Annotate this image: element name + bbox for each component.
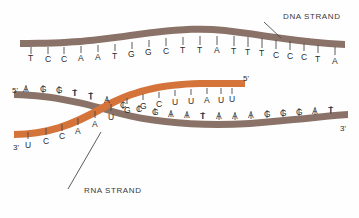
rna-base: A [204,95,210,105]
rna-base: G [124,105,131,115]
dna-strand-label: DNA STRAND [283,12,341,21]
dna-bottom-base: A [248,110,254,120]
dna-top-base: A [332,56,338,66]
rna-base: C [43,136,49,146]
dna-bottom-base: A [184,110,190,120]
rna-base: U [218,95,224,105]
transcription-diagram: T C C A A T G G C T T A T T T C C C T A … [0,0,359,218]
dna-bottom-base: A [104,95,110,105]
dna-bottom-base: T [200,111,205,121]
dna-top-base: C [61,54,67,64]
dna-top-base: A [78,53,84,63]
dna-bottom-base: A [312,106,318,116]
dna-top-base: G [128,49,135,59]
dna-top-base: C [45,54,51,64]
dna-bottom-base: T [328,105,333,115]
dna-top-base: C [273,50,279,60]
rna-strand-label: RNA STRAND [84,186,142,195]
dna-bottom-base: A [23,84,29,94]
rna-base: U [25,140,31,150]
rna-base: A [92,119,98,129]
dna-top-base: C [163,46,169,56]
dna-top-base: T [259,48,264,58]
dna-top-base: T [231,46,236,56]
rna-base: U [172,97,178,107]
dna-bottom-base: G [40,84,47,94]
dna-bottom-base: G [264,109,271,119]
dna-bottom-base: T [88,91,93,101]
rna-base: U [108,112,114,122]
dna-top-base: T [245,47,250,57]
dna-bottom-base: A [168,109,174,119]
rna-label-leader [68,132,101,189]
rna-base: C [59,131,65,141]
rna-base: U [229,94,235,104]
rna-base: U [188,96,194,106]
dna-top-base: T [112,51,117,61]
dna-top-base: A [95,52,101,62]
rna-base: C [156,99,162,109]
dna-bottom-base: T [72,88,77,98]
dna-top-base: T [197,45,202,55]
dna-top-base: C [301,52,307,62]
dna-top-base: T [315,54,320,64]
rna-three-prime: 3' [13,143,19,152]
rna-base: A [75,126,81,136]
dna-top-base: A [214,45,220,55]
dna-top-base: T [180,45,185,55]
dna-top-base: T [28,53,33,63]
dna-top-base: G [145,47,152,57]
dna-bottom-base: G [280,108,287,118]
rna-five-prime: 5' [243,74,249,83]
bottom-strand-five-prime: 5' [12,86,18,95]
dna-top-base: C [287,51,293,61]
bottom-strand-three-prime: 3' [340,124,346,133]
strand-artwork [0,0,359,218]
rna-base: G [140,101,147,111]
dna-bottom-base: G [56,85,63,95]
dna-bottom-base: A [216,111,222,121]
dna-bottom-base: A [232,111,238,121]
dna-bottom-base: G [296,107,303,117]
